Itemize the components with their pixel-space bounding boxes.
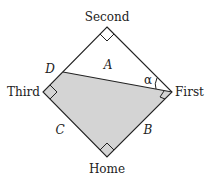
shaded-region (43, 72, 172, 157)
label-first: First (175, 85, 204, 99)
label-third: Third (7, 85, 40, 99)
label-side-b: B (143, 123, 153, 137)
right-angle-marker-second (100, 34, 114, 41)
label-alpha: α (144, 73, 152, 87)
label-home: Home (89, 162, 125, 176)
label-second: Second (85, 10, 130, 24)
label-side-c: C (55, 123, 64, 137)
label-d: D (44, 62, 55, 76)
alpha-angle-arc (155, 78, 157, 89)
baseball-diamond-diagram: Second Third First Home D A C B α (0, 0, 208, 182)
label-region-a: A (103, 58, 113, 72)
